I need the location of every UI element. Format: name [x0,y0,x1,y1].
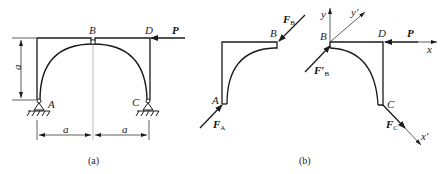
statics-diagram: B D P A C a a a (a) B A FB FA [0,0,444,174]
force-fa-label: FA [212,118,225,132]
diagram-canvas: B D P A C a a a (a) B A FB FA [0,0,444,174]
axis-y-prime-label: y′ [350,6,359,18]
caption-b: (b) [299,155,311,167]
figure-b-left-part: B A FB FA [200,13,305,132]
dim-label-vertical: a [11,64,23,70]
force-fb-prime-label: F′B [313,64,329,78]
force-fb-label: FB [282,13,295,27]
label-p: P [172,24,179,36]
label-d-right: D [377,27,386,39]
pin-support-c [136,99,159,116]
label-b-right: B [320,30,327,42]
right-member [330,42,383,105]
label-d: D [144,24,153,36]
dim-label-left: a [63,123,69,135]
axis-x-prime-label: x′ [420,130,429,142]
figure-a: B D P A C a a a (a) [11,24,185,167]
axis-y-label: y [320,8,326,20]
dim-label-right: a [122,123,128,135]
label-a: A [47,98,55,110]
axis-x-label: x [426,43,432,55]
label-a-left: A [211,94,219,106]
hinge-b [91,40,96,45]
force-fc-label: FC [385,118,398,132]
left-member [222,42,277,104]
x-prime-axis [405,128,421,145]
caption-a: (a) [88,155,99,167]
label-b: B [89,24,96,36]
pin-support-a [27,99,50,116]
label-b-left: B [270,27,277,39]
label-p-right: P [407,27,414,39]
label-c: C [132,96,140,108]
label-c-right: C [387,98,395,110]
figure-b-right-part: y y′ x x′ B D P C F′B FC (b) [299,6,437,167]
frame-structure [37,38,150,100]
